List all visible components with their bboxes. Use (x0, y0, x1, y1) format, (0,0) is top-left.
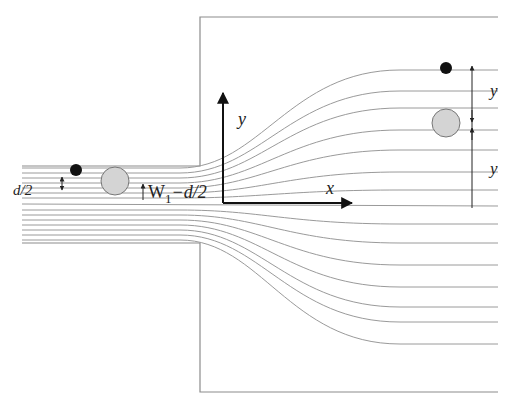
axis-x-label: x (325, 178, 334, 198)
large-particle-right (432, 109, 460, 137)
axis-y-label: y (236, 109, 246, 129)
coordinate-axes: y x (223, 93, 352, 203)
large-particle-left (101, 167, 129, 195)
flow-diagram: y x d/2 W1−d/2 y y (0, 0, 513, 407)
small-particle-right (440, 62, 452, 74)
right-y-upper-label: y (488, 81, 498, 100)
streamlines (22, 70, 498, 344)
right-y-lower-label: y (488, 159, 498, 178)
d-half-label: d/2 (13, 182, 33, 198)
small-particle-left (70, 164, 82, 176)
w1-label: W1−d/2 (148, 182, 207, 206)
